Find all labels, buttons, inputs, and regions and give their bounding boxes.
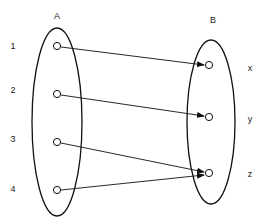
diagram-canvas: A B 1 2 3 4 x y z xyxy=(0,0,266,218)
set-b-label: B xyxy=(210,15,216,25)
point-b-y xyxy=(205,113,212,120)
element-label-2: 2 xyxy=(10,85,15,95)
element-label-y: y xyxy=(248,114,253,124)
point-a-2 xyxy=(53,90,60,97)
arrow-3-to-z xyxy=(61,143,204,172)
element-label-x: x xyxy=(248,63,253,73)
element-label-z: z xyxy=(248,169,253,179)
point-b-z xyxy=(205,169,212,176)
point-a-3 xyxy=(53,138,60,145)
set-a-label: A xyxy=(54,11,60,21)
element-label-1: 1 xyxy=(10,41,15,51)
arrow-1-to-x xyxy=(61,47,204,65)
point-a-4 xyxy=(53,186,60,193)
arrow-4-to-z xyxy=(61,175,204,190)
element-label-4: 4 xyxy=(10,184,15,194)
point-b-x xyxy=(205,61,212,68)
point-a-1 xyxy=(53,42,60,49)
mapping-diagram: A B 1 2 3 4 x y z xyxy=(0,0,266,218)
element-label-3: 3 xyxy=(10,134,15,144)
